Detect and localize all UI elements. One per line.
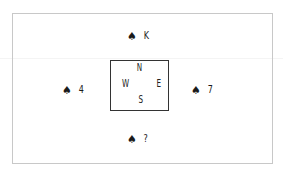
north-hand: ♠ K — [127, 30, 149, 42]
compass-box: N W E S — [110, 60, 169, 111]
spade-icon: ♠ — [127, 31, 137, 42]
spade-icon: ♠ — [62, 85, 72, 96]
compass-east-label: E — [157, 79, 162, 89]
compass-south-label: S — [139, 95, 144, 105]
compass-north-label: N — [137, 63, 142, 73]
west-hand: ♠ 4 — [62, 84, 84, 96]
north-card: K — [144, 30, 149, 42]
south-card: ? — [143, 133, 147, 145]
east-hand: ♠ 7 — [191, 84, 213, 96]
south-hand: ♠ ? — [127, 133, 148, 145]
compass-west-label: W — [122, 79, 129, 89]
west-card: 4 — [79, 84, 84, 96]
spade-icon: ♠ — [127, 134, 137, 145]
east-card: 7 — [208, 84, 213, 96]
spade-icon: ♠ — [191, 85, 201, 96]
